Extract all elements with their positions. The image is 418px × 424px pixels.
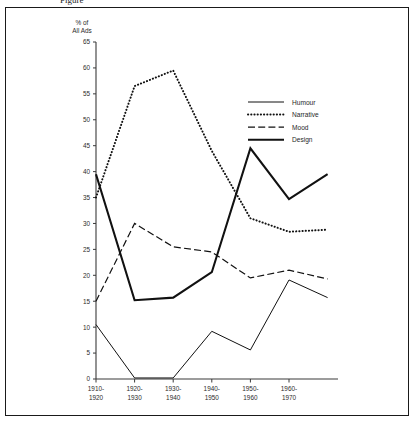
y-tick-label: 5: [86, 349, 90, 356]
series-line-narrative: [96, 71, 328, 232]
y-axis-caption-line1: % of: [76, 19, 89, 26]
x-tick-label-bottom: 1930: [127, 394, 142, 401]
x-tick-label-top: 1930-: [165, 385, 181, 392]
legend-label-mood[interactable]: Mood: [292, 124, 309, 131]
y-tick-group: 05101520253035404550556065: [83, 38, 96, 382]
x-tick-label-bottom: 1920: [89, 394, 104, 401]
cropped-header-text: Figure: [0, 0, 418, 6]
y-tick-label: 15: [83, 298, 91, 305]
y-tick-label: 0: [86, 375, 90, 382]
cropped-header-label: Figure: [60, 0, 84, 5]
y-tick-label: 65: [83, 38, 91, 45]
x-tick-label-bottom: 1950: [205, 394, 220, 401]
y-tick-label: 10: [83, 324, 91, 331]
y-tick-label: 50: [83, 116, 91, 123]
series-line-design: [96, 148, 328, 300]
chart-legend: HumourNarrativeMoodDesign: [248, 99, 319, 145]
y-tick-label: 45: [83, 142, 91, 149]
x-tick-group: 1910-19201920-19301930-19401940-19501950…: [88, 379, 297, 401]
y-tick-label: 55: [83, 90, 91, 97]
series-line-humour: [96, 280, 328, 378]
y-tick-label: 30: [83, 220, 91, 227]
x-tick-label-top: 1920-: [126, 385, 142, 392]
y-axis-caption-line2: All Ads: [72, 27, 92, 34]
chart-frame-border: % of All Ads 05101520253035404550556065 …: [5, 7, 409, 416]
y-tick-label: 60: [83, 64, 91, 71]
figure-container: Figure % of All Ads 05101520253035404550…: [0, 0, 418, 424]
line-chart: % of All Ads 05101520253035404550556065 …: [6, 8, 407, 414]
x-tick-label-top: 1940-: [204, 385, 220, 392]
x-tick-label-bottom: 1970: [282, 394, 297, 401]
y-tick-label: 35: [83, 194, 91, 201]
y-tick-label: 25: [83, 246, 91, 253]
y-tick-label: 40: [83, 168, 91, 175]
legend-label-design[interactable]: Design: [292, 136, 313, 144]
x-tick-label-top: 1950-: [242, 385, 258, 392]
legend-label-narrative[interactable]: Narrative: [292, 111, 319, 118]
x-tick-label-bottom: 1960: [243, 394, 258, 401]
x-tick-label-top: 1960-: [281, 385, 297, 392]
x-tick-label-top: 1910-: [88, 385, 104, 392]
x-tick-label-bottom: 1940: [166, 394, 181, 401]
y-tick-label: 20: [83, 272, 91, 279]
legend-label-humour[interactable]: Humour: [292, 99, 316, 106]
